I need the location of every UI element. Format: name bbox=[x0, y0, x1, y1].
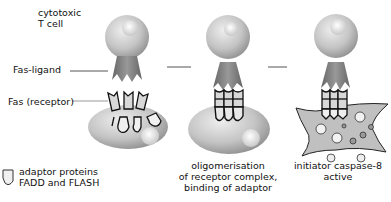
bound-adaptors bbox=[215, 107, 243, 121]
stage-1 bbox=[88, 15, 168, 149]
stage-2 bbox=[188, 15, 270, 154]
caspase-8-receptors bbox=[322, 90, 347, 119]
fas-receptors bbox=[108, 92, 148, 111]
adaptor-legend-icon bbox=[3, 170, 13, 185]
stage-3-caption: initiator caspase-8 active bbox=[285, 160, 391, 182]
fas-receptor-label: Fas (receptor) bbox=[8, 96, 74, 107]
t-cell-nucleus bbox=[122, 20, 138, 36]
target-nucleus bbox=[242, 129, 260, 147]
fas-ligand bbox=[213, 62, 243, 90]
target-nucleus bbox=[141, 127, 159, 145]
stage-3 bbox=[296, 14, 388, 162]
fas-ligand bbox=[321, 62, 350, 90]
t-cell-nucleus bbox=[330, 19, 346, 35]
oligomerised-receptors bbox=[215, 90, 243, 107]
t-cell-label: cytotoxic T cell bbox=[38, 7, 81, 29]
t-cell bbox=[206, 15, 250, 59]
t-cell-nucleus bbox=[224, 22, 238, 36]
fas-ligand-label: Fas-ligand bbox=[13, 64, 61, 75]
stage-2-caption: oligomerisation of receptor complex, bin… bbox=[178, 160, 278, 193]
legend-label: adaptor proteins FADD and FLASH bbox=[19, 166, 99, 188]
fas-ligand bbox=[112, 56, 142, 82]
